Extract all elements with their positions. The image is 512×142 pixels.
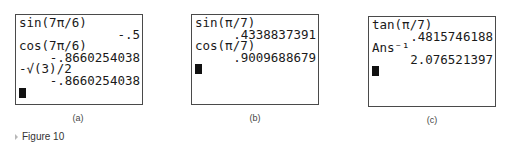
caption-a: (a)	[63, 113, 93, 123]
output-line: -.8660254038	[19, 75, 140, 87]
figure-label: Figure 10	[15, 131, 64, 142]
calculator-screen-b: sin(π/7) .4338837391 cos(π/7) .900968867…	[191, 14, 319, 105]
calculator-screen-a: sin(7π/6) -.5 cos(7π/6) -.8660254038 -√(…	[15, 14, 143, 105]
cursor-block-icon	[195, 64, 202, 74]
output-line: .9009688679	[195, 52, 316, 64]
cursor-block-icon	[372, 66, 379, 76]
output-line: 2.076521397	[372, 54, 493, 66]
caption-b: (b)	[240, 113, 270, 123]
triangle-right-icon	[15, 134, 18, 140]
calculator-screen-c: tan(π/7) .4815746188 Ans⁻¹ 2.076521397	[368, 16, 496, 107]
caption-c: (c)	[417, 115, 447, 125]
cursor-block-icon	[19, 88, 26, 98]
figure-label-text: Figure 10	[22, 131, 64, 142]
